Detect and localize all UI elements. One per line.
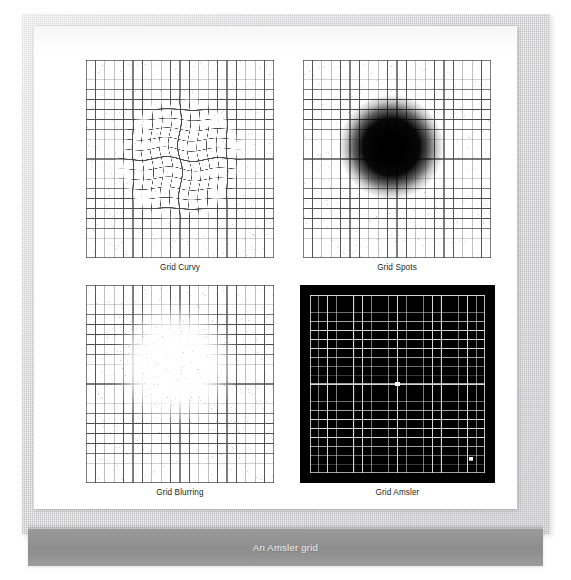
panel-grid-spots: Grid Spots <box>303 60 491 258</box>
panel-label-grid-spots: Grid Spots <box>303 263 491 272</box>
panel-grid-curvy: Grid Curvy <box>86 60 274 258</box>
caption-bar: An Amsler grid <box>28 529 543 566</box>
caption-text: An Amsler grid <box>253 542 318 553</box>
figure-root: Grid Curvy Grid Spots Grid Blurring Grid… <box>0 0 571 580</box>
grid-blurring-canvas <box>86 285 274 483</box>
panel-label-grid-curvy: Grid Curvy <box>86 263 274 272</box>
panel-label-grid-blurring: Grid Blurring <box>86 488 274 497</box>
grid-spots-canvas <box>303 60 491 258</box>
grid-curvy-canvas <box>86 60 274 258</box>
grid-amsler-canvas <box>300 285 495 483</box>
grid-panels-container: Grid Curvy Grid Spots Grid Blurring Grid… <box>0 0 571 580</box>
panel-grid-blurring: Grid Blurring <box>86 285 274 483</box>
panel-label-grid-amsler: Grid Amsler <box>300 488 495 497</box>
panel-grid-amsler: Grid Amsler <box>300 285 495 483</box>
